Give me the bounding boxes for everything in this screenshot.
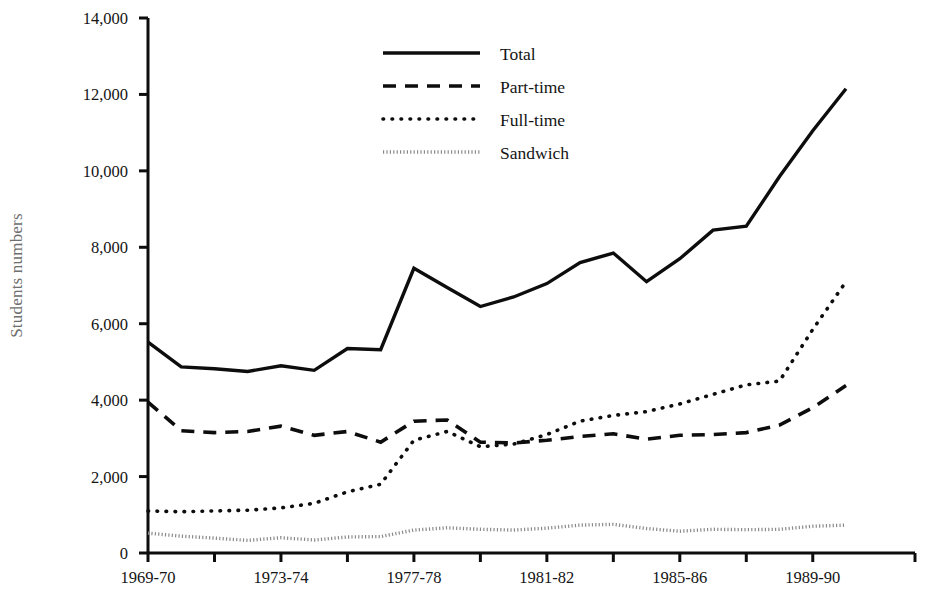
x-tick-label: 1969-70 xyxy=(121,568,176,587)
x-tick-label: 1973-74 xyxy=(253,568,308,587)
y-axis-ticks: 02,0004,0006,0008,00010,00012,00014,000 xyxy=(83,9,148,563)
series-line-full-time xyxy=(148,282,846,512)
y-tick-label: 4,000 xyxy=(91,391,128,410)
x-axis-ticks: 1969-701973-741977-781981-821985-861989-… xyxy=(121,553,916,587)
y-tick-label: 8,000 xyxy=(91,238,128,257)
x-tick-label: 1985-86 xyxy=(652,568,707,587)
legend-label-total: Total xyxy=(500,44,536,64)
y-tick-label: 0 xyxy=(120,544,128,563)
x-tick-label: 1977-78 xyxy=(386,568,441,587)
legend-label-part-time: Part-time xyxy=(500,77,565,97)
y-tick-label: 14,000 xyxy=(83,9,128,28)
axes-group xyxy=(148,18,915,553)
x-tick-label: 1981-82 xyxy=(519,568,574,587)
y-axis-title: Students numbers xyxy=(7,213,26,338)
x-tick-label: 1989-90 xyxy=(785,568,840,587)
y-tick-label: 2,000 xyxy=(91,468,128,487)
series-line-sandwich xyxy=(148,524,846,540)
legend-label-full-time: Full-time xyxy=(500,110,565,130)
y-tick-label: 10,000 xyxy=(83,162,128,181)
y-tick-label: 6,000 xyxy=(91,315,128,334)
series-line-total xyxy=(148,89,846,372)
legend-label-sandwich: Sandwich xyxy=(500,143,569,163)
y-tick-label: 12,000 xyxy=(83,85,128,104)
series-line-part-time xyxy=(148,386,846,443)
data-series-layer xyxy=(148,89,846,541)
chart-legend: TotalPart-timeFull-timeSandwich xyxy=(383,44,569,163)
chart-container: 02,0004,0006,0008,00010,00012,00014,000 … xyxy=(0,0,949,598)
line-chart: 02,0004,0006,0008,00010,00012,00014,000 … xyxy=(0,0,949,598)
